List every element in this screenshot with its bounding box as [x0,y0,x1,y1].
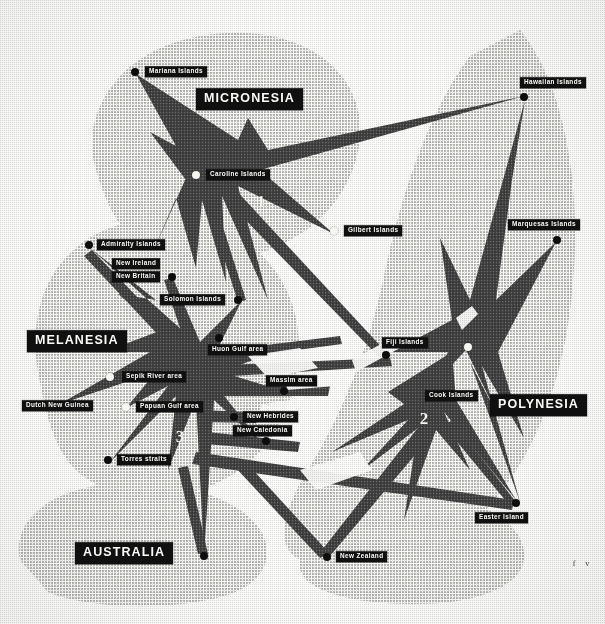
region-label-australia[interactable]: AUSTRALIA [75,542,173,564]
map-dot-new-zealand[interactable] [323,553,331,561]
map-label-torres-straits[interactable]: Torres straits [117,454,171,465]
map-label-easter-island[interactable]: Easter Island [475,512,528,523]
map-label-papuan-gulf-area[interactable]: Papuan Gulf area [136,401,203,412]
area-number-3: 3 [176,427,185,447]
map-dot-hawaiian-islands[interactable] [520,93,528,101]
area-number-2: 2 [420,409,429,429]
oceania-culture-map: Mariana IslandsHawaiian IslandsCaroline … [0,0,605,624]
map-dot-easter-island[interactable] [512,499,520,507]
map-label-cook-islands[interactable]: Cook Islands [425,390,478,401]
map-label-fiji-islands[interactable]: Fiji Islands [382,337,428,348]
map-dot-marquesas-islands[interactable] [553,236,561,244]
region-label-melanesia[interactable]: MELANESIA [27,330,127,352]
map-dot-caroline-islands[interactable] [192,171,200,179]
map-label-marquesas-islands[interactable]: Marquesas Islands [508,219,580,230]
map-label-new-ireland[interactable]: New Ireland [112,258,160,269]
map-label-caroline-islands[interactable]: Caroline Islands [206,169,270,180]
area-number-1: 1 [257,192,266,212]
map-label-new-hebrides[interactable]: New Hebrides [243,411,298,422]
map-dot-new-hebrides[interactable] [230,413,238,421]
map-label-mariana-islands[interactable]: Mariana Islands [145,66,207,77]
map-dot-papuan-gulf-area[interactable] [122,403,130,411]
map-dot-mariana-islands[interactable] [131,68,139,76]
map-label-new-zealand[interactable]: New Zealand [336,551,387,562]
map-dot-new-britain[interactable] [168,273,176,281]
region-label-micronesia[interactable]: MICRONESIA [196,88,303,110]
map-dot-solomon-islands[interactable] [234,296,242,304]
map-dot-fiji-islands[interactable] [382,351,390,359]
map-dot-australia-dot[interactable] [200,552,208,560]
map-dot-cook-islands[interactable] [464,343,472,351]
map-label-massim-area[interactable]: Massim area [266,375,317,386]
map-dot-sepik-river-area[interactable] [106,373,114,381]
map-label-gilbert-islands[interactable]: Gilbert Islands [344,225,402,236]
map-dot-gilbert-islands[interactable] [330,227,338,235]
map-label-sepik-river-area[interactable]: Sepik River area [122,371,186,382]
map-dot-admiralty-islands[interactable] [85,241,93,249]
map-label-solomon-islands[interactable]: Solomon Islands [160,294,225,305]
region-label-polynesia[interactable]: POLYNESIA [490,394,587,416]
map-label-admiralty-islands[interactable]: Admiralty Islands [97,239,165,250]
map-label-hawaiian-islands[interactable]: Hawaiian Islands [520,77,586,88]
map-label-dutch-new-guinea[interactable]: Dutch New Guinea [22,400,93,411]
map-label-new-caledonia[interactable]: New Caledonia [233,425,292,436]
map-dot-huon-gulf-area[interactable] [215,334,223,342]
map-label-new-britain[interactable]: New Britain [112,271,160,282]
corner-signature-mark: f v [573,559,594,568]
map-label-huon-gulf-area[interactable]: Huon Gulf area [208,344,267,355]
map-dot-massim-area[interactable] [280,387,288,395]
map-dot-torres-straits[interactable] [104,456,112,464]
map-dot-new-caledonia[interactable] [262,437,270,445]
